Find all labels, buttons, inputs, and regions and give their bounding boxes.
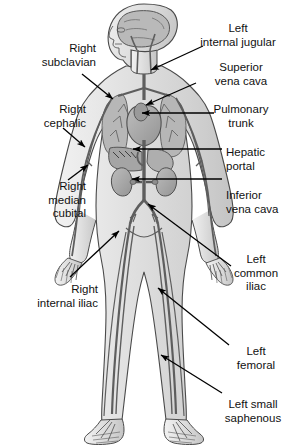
label-hepatic-portal: Hepaticportal xyxy=(226,146,286,173)
label-line: subclavian xyxy=(14,56,96,70)
label-left-common-iliac: Leftcommoniliac xyxy=(226,253,286,294)
label-line: median xyxy=(14,194,86,208)
label-left-femoral: Leftfemoral xyxy=(226,345,286,372)
label-superior-vena-cava: Superiorvena cava xyxy=(196,61,286,88)
label-line: iliac xyxy=(226,280,286,294)
label-line: saphenous xyxy=(219,412,287,426)
label-line: internal jugular xyxy=(190,36,286,50)
label-line: Pulmonary xyxy=(196,103,286,117)
label-line: Left xyxy=(226,345,286,359)
label-line: Left xyxy=(190,22,286,36)
label-left-small-saphenous: Left smallsaphenous xyxy=(219,398,287,425)
label-line: Right xyxy=(8,283,98,297)
label-line: Left xyxy=(226,253,286,267)
label-line: vena cava xyxy=(226,203,288,217)
label-line: Hepatic xyxy=(226,146,286,160)
label-line: common xyxy=(226,267,286,281)
foot-left xyxy=(84,419,124,445)
label-left-internal-jugular: Leftinternal jugular xyxy=(190,22,286,49)
label-line: internal iliac xyxy=(8,297,98,311)
label-line: Inferior xyxy=(226,189,288,203)
label-line: cephalic xyxy=(14,117,86,131)
label-right-subclavian: Rightsubclavian xyxy=(14,42,96,69)
diagram-canvas: RightsubclavianRightcephalicRightmedianc… xyxy=(0,0,289,447)
label-right-internal-iliac: Rightinternal iliac xyxy=(8,283,98,310)
label-line: femoral xyxy=(226,359,286,373)
label-line: Left small xyxy=(219,398,287,412)
label-line: cubital xyxy=(14,207,86,221)
label-line: vena cava xyxy=(196,75,286,89)
label-pulmonary-trunk: Pulmonarytrunk xyxy=(196,103,286,130)
label-right-cephalic: Rightcephalic xyxy=(14,103,86,130)
label-inferior-vena-cava: Inferiorvena cava xyxy=(226,189,288,216)
label-line: portal xyxy=(226,160,286,174)
foot-right xyxy=(164,419,204,445)
label-line: Right xyxy=(14,180,86,194)
label-line: Right xyxy=(14,42,96,56)
label-line: Right xyxy=(14,103,86,117)
label-line: Superior xyxy=(196,61,286,75)
label-line: trunk xyxy=(196,117,286,131)
label-right-median-cubital: Rightmediancubital xyxy=(14,180,86,221)
